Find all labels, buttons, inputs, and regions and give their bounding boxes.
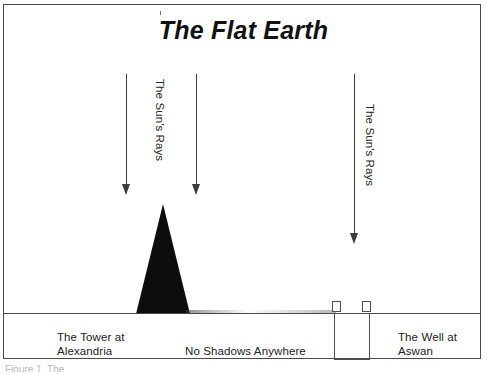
well-curb-right	[362, 301, 371, 312]
arrow-head-down-icon	[350, 233, 358, 244]
arrow-head-down-icon	[192, 184, 200, 195]
sun-ray-arrow-right	[348, 74, 361, 246]
well-at-aswan-shape	[331, 301, 380, 361]
triangle-icon	[136, 204, 190, 314]
figure-title: The Flat Earth	[0, 16, 487, 45]
arrow-shaft	[126, 74, 127, 186]
sun-rays-label-left: The Sun's Rays	[154, 79, 166, 161]
well-wall-left	[334, 313, 335, 360]
ground-line	[4, 313, 480, 314]
arrow-shaft	[354, 74, 355, 235]
scan-speck-artifact	[160, 11, 161, 15]
no-shadows-caption: No Shadows Anywhere	[185, 344, 306, 358]
tower-caption-line-2: Alexandria	[57, 344, 124, 358]
well-caption-line-1: The Well at	[398, 330, 457, 344]
flat-earth-figure: The Flat Earth The Sun's Rays The Sun's …	[0, 0, 487, 374]
tower-at-alexandria-shape	[136, 204, 191, 314]
sun-ray-arrow-middle	[190, 74, 203, 196]
arrow-shaft	[196, 74, 197, 186]
tower-caption: The Tower at Alexandria	[57, 330, 124, 358]
well-caption-line-2: Aswan	[398, 344, 457, 358]
well-curb-left	[332, 301, 341, 312]
sun-rays-label-right: The Sun's Rays	[364, 104, 376, 186]
well-bottom	[334, 359, 370, 360]
well-caption: The Well at Aswan	[398, 330, 457, 358]
sun-ray-arrow-left	[120, 74, 133, 196]
tower-caption-line-1: The Tower at	[57, 330, 124, 344]
figure-border	[3, 4, 481, 359]
clipped-figure-caption: Figure 1. The	[5, 364, 64, 372]
well-wall-right	[369, 313, 370, 360]
arrow-head-down-icon	[122, 184, 130, 195]
